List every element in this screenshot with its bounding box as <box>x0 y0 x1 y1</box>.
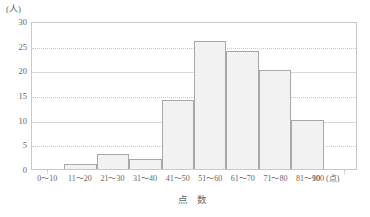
x-axis-end-tick-label: 100 (点) <box>312 172 370 186</box>
histogram-bin <box>194 23 226 169</box>
y-tick-label-15: 15 <box>19 92 28 101</box>
x-minor-tick <box>344 170 345 174</box>
x-minor-tick <box>47 170 48 174</box>
y-tick-label-20: 20 <box>19 67 28 76</box>
y-tick-label-30: 30 <box>19 18 28 27</box>
histogram-bin <box>64 23 96 169</box>
histogram-bar <box>291 120 323 169</box>
histogram-bar <box>97 154 129 169</box>
plot-area <box>31 22 357 170</box>
y-tick-label-0: 0 <box>23 166 27 175</box>
histogram-bin <box>129 23 161 169</box>
histogram-bin <box>291 23 323 169</box>
x-tick-label: 61〜70 <box>227 172 260 186</box>
bar-series <box>32 23 356 169</box>
histogram-bar <box>194 41 226 169</box>
histogram-bin <box>324 23 356 169</box>
histogram-bin <box>97 23 129 169</box>
y-tick-label-25: 25 <box>19 42 28 51</box>
x-axis-title: 点 数 <box>31 192 357 206</box>
histogram-bar <box>162 100 194 169</box>
x-tick-label: 31〜40 <box>129 172 162 186</box>
histogram-bin <box>226 23 258 169</box>
y-tick-label-10: 10 <box>19 116 28 125</box>
x-axis-tick-labels: 0〜1011〜2021〜3031〜4041〜5051〜6061〜7071〜808… <box>31 172 357 186</box>
x-tick-label: 71〜80 <box>259 172 292 186</box>
histogram-chart: (人) 051015202530 0〜1011〜2021〜3031〜4041〜5… <box>0 0 370 217</box>
histogram-bar <box>129 159 161 169</box>
y-axis-tick-labels: 051015202530 <box>0 22 27 170</box>
x-tick-label: 0〜10 <box>31 172 64 186</box>
histogram-bar <box>226 51 258 169</box>
x-tick-label: 11〜20 <box>64 172 97 186</box>
histogram-bin <box>162 23 194 169</box>
histogram-bin <box>32 23 64 169</box>
histogram-bin <box>259 23 291 169</box>
histogram-bar <box>64 164 96 169</box>
y-axis-unit-label: (人) <box>6 2 21 15</box>
histogram-bar <box>259 70 291 169</box>
x-tick-label: 41〜50 <box>161 172 194 186</box>
x-tick-label: 51〜60 <box>194 172 227 186</box>
x-tick-label: 21〜30 <box>96 172 129 186</box>
y-tick-label-5: 5 <box>23 141 27 150</box>
